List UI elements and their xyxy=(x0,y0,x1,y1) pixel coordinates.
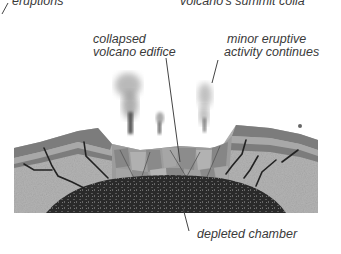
minor-activity-leader xyxy=(212,60,218,83)
label-minor-line2: activity continues xyxy=(224,46,319,59)
label-summit-collapses: volcano's summit colla xyxy=(180,0,305,8)
collapsed-leader xyxy=(166,58,180,162)
smoke-plumes xyxy=(115,73,302,134)
eruptions-leader xyxy=(2,3,8,14)
label-collapsed-line2: volcano edifice xyxy=(93,46,176,59)
label-depleted-chamber: depleted chamber xyxy=(197,228,297,241)
label-eruptions: eruptions xyxy=(12,0,63,8)
